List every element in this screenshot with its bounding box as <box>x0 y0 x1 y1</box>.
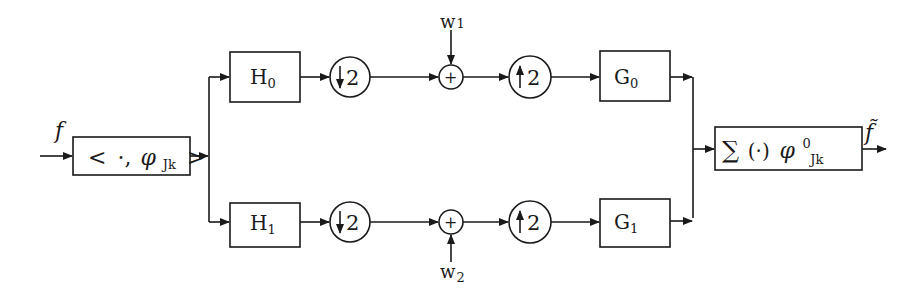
angle-close: > <box>187 145 205 170</box>
input-label: f <box>53 118 67 143</box>
w2-sub: 2 <box>456 270 464 285</box>
upsample-factor: 2 <box>527 66 540 90</box>
upper-branch: H0 2 + w1 2 G0 <box>230 11 692 102</box>
h0-base: H <box>250 65 267 89</box>
plus-icon: + <box>444 68 457 87</box>
g1-sub: 1 <box>630 221 638 236</box>
phi-subscript: Jk <box>161 157 176 172</box>
dot-comma: ·, <box>117 145 131 170</box>
lower-branch: H1 2 + w2 2 G1 <box>230 199 692 285</box>
input-signal: f <box>40 118 72 156</box>
upsample-factor: 2 <box>527 211 540 235</box>
g0-sub: 0 <box>630 76 638 91</box>
downsample-factor: 2 <box>346 66 359 90</box>
h1-base: H <box>250 211 267 235</box>
synthesis-block: ∑ (·) φ 0 Jk <box>715 126 862 170</box>
output-signal: f̃ <box>862 119 886 149</box>
plus-icon: + <box>444 213 457 232</box>
paren-dot: (·) <box>748 139 770 163</box>
phi-superscript: 0 <box>802 136 810 151</box>
phi-symbol: φ <box>140 145 156 170</box>
svg-text:w2: w2 <box>440 261 465 285</box>
analysis-block: < ·, φ Jk > <box>73 137 205 175</box>
g0-base: G <box>614 65 630 89</box>
g1-base: G <box>614 210 630 234</box>
h1-sub: 1 <box>267 222 275 237</box>
h0-sub: 0 <box>267 76 275 91</box>
svg-text:w1: w1 <box>440 11 465 32</box>
svg-text:< ·, φ Jk: < ·, φ Jk > <box>88 145 205 174</box>
output-label: f̃ <box>863 119 879 145</box>
angle-open: < <box>88 145 106 170</box>
phi-subscript: Jk <box>808 152 823 167</box>
w1-sub: 1 <box>456 16 464 31</box>
phi-symbol: φ <box>779 138 795 163</box>
w2-base: w <box>440 261 456 282</box>
downsample-factor: 2 <box>346 211 359 235</box>
sum-symbol: ∑ <box>722 136 739 164</box>
w1-base: w <box>440 11 456 32</box>
filter-bank-diagram: f < ·, φ Jk > H0 2 + w1 <box>0 0 919 297</box>
